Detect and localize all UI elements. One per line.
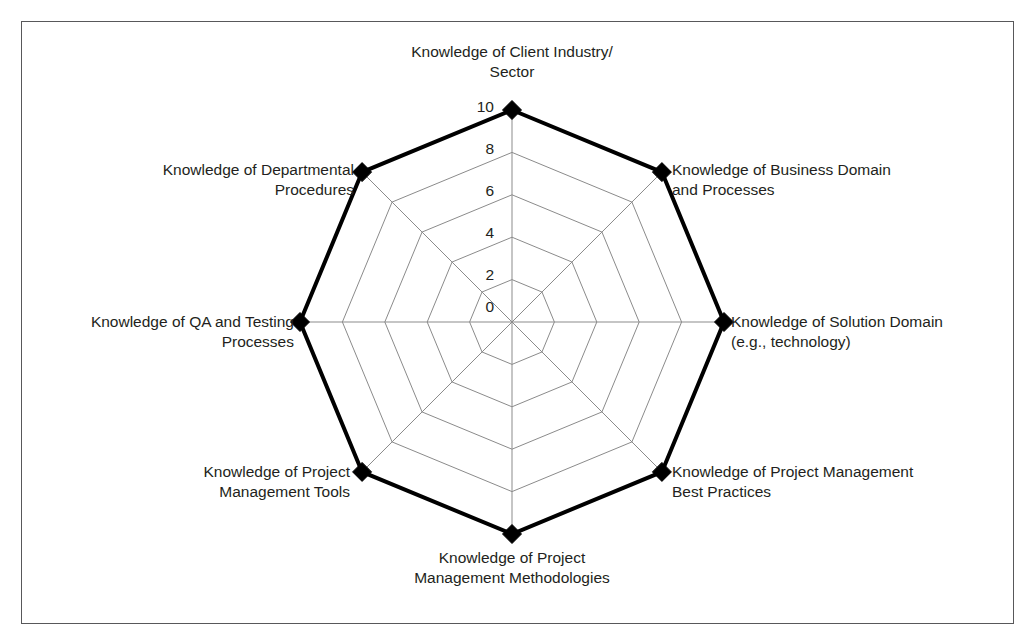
axis-label-pm-methodologies: Knowledge of Project Management Methodol… <box>386 548 638 589</box>
axis-label-client-industry: Knowledge of Client Industry/ Sector <box>382 42 642 83</box>
radial-tick-0: 0 <box>432 298 494 316</box>
axis-label-pm-best-practices: Knowledge of Project Management Best Pra… <box>672 462 1002 503</box>
data-point-marker-0 <box>503 101 522 120</box>
axis-label-departmental-procedures: Knowledge of Departmental Procedures <box>92 160 354 201</box>
data-point-marker-4 <box>503 525 522 544</box>
radial-tick-2: 2 <box>432 266 494 284</box>
radial-tick-8: 8 <box>432 140 494 158</box>
axis-label-pm-tools: Knowledge of Project Management Tools <box>140 462 350 503</box>
radial-tick-4: 4 <box>432 224 494 242</box>
radial-tick-10: 10 <box>432 98 494 116</box>
figure-root: Knowledge of Client Industry/ Sector Kno… <box>0 0 1036 643</box>
radial-tick-6: 6 <box>432 182 494 200</box>
axis-label-business-domain: Knowledge of Business Domain and Process… <box>672 160 1002 201</box>
axis-label-qa-testing: Knowledge of QA and Testing Processes <box>26 312 294 353</box>
axis-label-solution-domain: Knowledge of Solution Domain (e.g., tech… <box>731 312 1021 353</box>
